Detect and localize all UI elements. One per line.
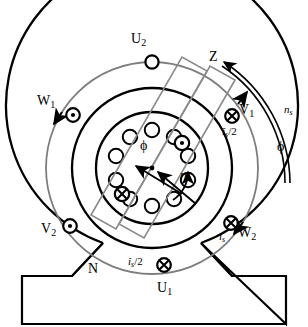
w2-slot-icon [224, 216, 238, 230]
label-n-coil: N [88, 262, 98, 276]
label-n-rotor: n [180, 169, 187, 183]
label-is-half-bottom: îs/2 [128, 256, 143, 269]
label-phi-outer: ϕ [277, 140, 284, 154]
coil-axis-box [91, 57, 235, 238]
label-v1: V1 [239, 103, 254, 119]
u2-slot-icon [145, 55, 158, 68]
diagram-canvas [0, 0, 308, 327]
label-u1: U1 [157, 281, 172, 297]
v2-slot-icon [63, 219, 77, 233]
label-w1: W1 [37, 94, 55, 110]
label-z: Z [209, 50, 218, 64]
label-ns: ns [284, 104, 293, 117]
rotor-conductor-dot-icon [175, 136, 189, 150]
u1-slot-icon [157, 258, 171, 272]
w1-slot-icon [66, 108, 80, 122]
label-u2: U2 [131, 32, 146, 48]
label-is-half-right: îs/2 [222, 126, 237, 139]
v1-slot-icon [225, 109, 239, 123]
label-phi-rotor: ϕ [140, 139, 147, 153]
label-w2: W2 [238, 226, 256, 242]
label-v2: V2 [41, 222, 56, 238]
machine-base [22, 243, 286, 324]
machine-housing-outline [6, 0, 298, 243]
induction-machine-diagram: U2 U1 V1 V2 W1 W2 Z N ns ϕ ϕ n îs/2 îs/2… [0, 0, 308, 327]
label-is-full: îs [219, 231, 225, 244]
rotor-conductor-cross-icon [115, 187, 129, 201]
